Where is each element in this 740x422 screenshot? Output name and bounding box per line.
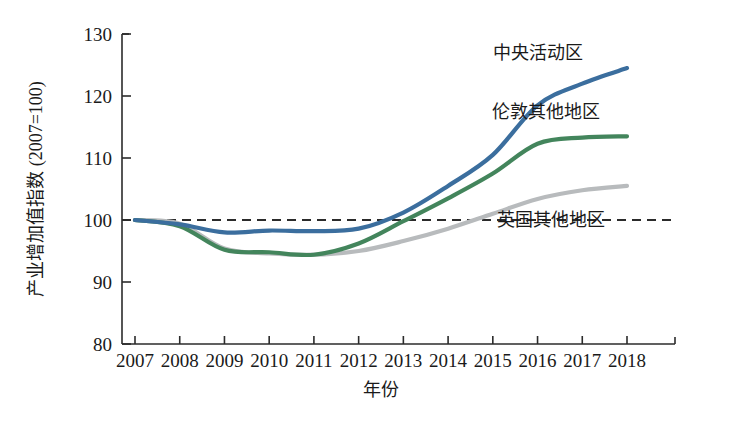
y-axis-tick-label: 90 [93,272,112,293]
x-axis-tick-label: 2018 [608,350,646,371]
x-axis-tick-label: 2017 [563,350,601,371]
series-label: 伦敦其他地区 [492,102,600,122]
x-axis-tick-label: 2012 [340,350,378,371]
axes-layer: 8090100110120130200720082009201020112012… [84,24,676,371]
x-axis-tick-label: 2011 [295,350,332,371]
x-axis-tick-label: 2014 [429,350,468,371]
industry-gva-index-line-chart: 8090100110120130200720082009201020112012… [0,0,740,422]
y-axis-tick-label: 100 [84,210,113,231]
y-axis-tick-label: 130 [84,24,113,45]
series-line [135,68,627,233]
y-axis-tick-label: 80 [93,334,112,355]
x-axis-tick-label: 2009 [205,350,243,371]
x-axis-title: 年份 [363,380,399,400]
chart-container: 8090100110120130200720082009201020112012… [0,0,740,422]
y-axis-title: 产业增加值指数 (2007=100) [26,81,47,297]
x-axis-tick-label: 2008 [161,350,199,371]
x-axis-tick-label: 2007 [116,350,154,371]
x-axis-tick-label: 2013 [384,350,422,371]
series-label: 英国其他地区 [497,210,605,230]
x-axis-tick-label: 2015 [474,350,512,371]
y-axis-tick-label: 110 [84,148,112,169]
x-axis-tick-label: 2016 [519,350,557,371]
x-axis-tick-label: 2010 [250,350,288,371]
series-label: 中央活动区 [493,43,583,63]
y-axis-tick-label: 120 [84,86,113,107]
